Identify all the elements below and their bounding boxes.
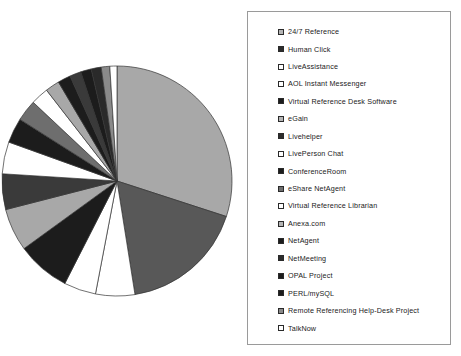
legend-item[interactable]: eGain xyxy=(248,110,450,127)
legend-item[interactable]: LiveAssistance xyxy=(248,58,450,75)
legend-item-label: LivePerson Chat xyxy=(288,150,343,157)
legend-item-label: NetMeeting xyxy=(288,255,326,262)
legend-swatch-icon xyxy=(278,325,284,331)
legend-swatch-icon xyxy=(278,29,284,35)
legend-item-label: PERL/mySQL xyxy=(288,290,334,297)
legend-item[interactable]: PERL/mySQL xyxy=(248,285,450,302)
legend-swatch-icon xyxy=(278,308,284,314)
pie-slices-group xyxy=(2,66,232,296)
legend-item-label: OPAL Project xyxy=(288,272,333,279)
legend-item-label: TalkNow xyxy=(288,325,316,332)
legend-swatch-icon xyxy=(278,46,284,52)
legend-item-label: Remote Referencing Help-Desk Project xyxy=(288,307,419,314)
pie-chart-svg xyxy=(0,0,246,356)
legend-item-label: NetAgent xyxy=(288,237,319,244)
legend-swatch-icon xyxy=(278,255,284,261)
legend-item[interactable]: OPAL Project xyxy=(248,267,450,284)
legend-swatch-icon xyxy=(278,168,284,174)
legend-swatch-icon xyxy=(278,116,284,122)
legend-item-label: 24/7 Reference xyxy=(288,28,339,35)
legend-panel: 24/7 ReferenceHuman ClickLiveAssistanceA… xyxy=(247,11,451,345)
legend-item[interactable]: Human Click xyxy=(248,40,450,57)
legend-swatch-icon xyxy=(278,221,284,227)
legend-swatch-icon xyxy=(278,133,284,139)
legend-item-label: LiveAssistance xyxy=(288,63,338,70)
pie-chart-area xyxy=(0,0,246,356)
legend-item[interactable]: 24/7 Reference xyxy=(248,23,450,40)
legend-item-label: ConferenceRoom xyxy=(288,168,346,175)
legend-item[interactable]: AOL Instant Messenger xyxy=(248,75,450,92)
legend-swatch-icon xyxy=(278,238,284,244)
legend-item[interactable]: eShare NetAgent xyxy=(248,180,450,197)
legend-swatch-icon xyxy=(278,186,284,192)
legend-item-label: Human Click xyxy=(288,46,330,53)
legend-swatch-icon xyxy=(278,98,284,104)
legend-item-label: eGain xyxy=(288,115,308,122)
legend-item[interactable]: NetAgent xyxy=(248,232,450,249)
legend-item[interactable]: Remote Referencing Help-Desk Project xyxy=(248,302,450,319)
legend-swatch-icon xyxy=(278,81,284,87)
legend-list: 24/7 ReferenceHuman ClickLiveAssistanceA… xyxy=(248,18,450,344)
legend-item-label: Anexa.com xyxy=(288,220,325,227)
legend-item[interactable]: Virtual Reference Librarian xyxy=(248,197,450,214)
legend-swatch-icon xyxy=(278,64,284,70)
legend-swatch-icon xyxy=(278,273,284,279)
legend-item-label: Virtual Reference Desk Software xyxy=(288,98,397,105)
legend-item-label: AOL Instant Messenger xyxy=(288,80,366,87)
legend-swatch-icon xyxy=(278,290,284,296)
legend-item[interactable]: ConferenceRoom xyxy=(248,163,450,180)
legend-item[interactable]: Anexa.com xyxy=(248,215,450,232)
legend-item[interactable]: TalkNow xyxy=(248,319,450,336)
legend-item-label: Livehelper xyxy=(288,133,323,140)
legend-item-label: Virtual Reference Librarian xyxy=(288,202,377,209)
legend-item[interactable]: Livehelper xyxy=(248,128,450,145)
legend-swatch-icon xyxy=(278,203,284,209)
legend-item-label: eShare NetAgent xyxy=(288,185,345,192)
legend-item[interactable]: NetMeeting xyxy=(248,250,450,267)
legend-item[interactable]: Virtual Reference Desk Software xyxy=(248,93,450,110)
legend-swatch-icon xyxy=(278,151,284,157)
legend-item[interactable]: LivePerson Chat xyxy=(248,145,450,162)
